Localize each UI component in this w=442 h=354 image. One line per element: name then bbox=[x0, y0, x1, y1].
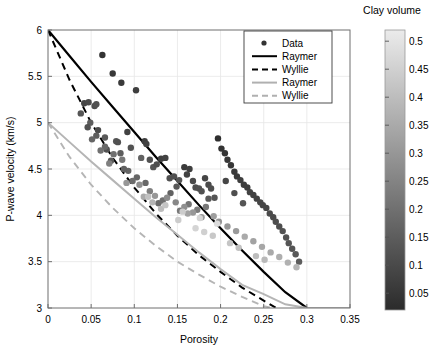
x-tick-label: 0.2 bbox=[214, 314, 228, 325]
data-point bbox=[202, 175, 208, 181]
data-point bbox=[267, 249, 273, 255]
data-point bbox=[192, 225, 198, 231]
data-point bbox=[197, 215, 203, 221]
data-point bbox=[233, 228, 239, 234]
y-tick-label: 5 bbox=[36, 117, 42, 128]
p-wave-velocity-porosity-chart: 00.050.10.150.20.250.30.35 33.544.555.56… bbox=[0, 0, 442, 354]
data-point bbox=[242, 233, 248, 239]
data-point bbox=[143, 141, 149, 147]
data-point bbox=[250, 238, 256, 244]
legend-label[interactable]: Raymer bbox=[282, 77, 318, 88]
data-point bbox=[283, 234, 289, 240]
x-tick-label: 0.1 bbox=[127, 314, 141, 325]
legend-marker-data bbox=[261, 40, 266, 45]
data-point bbox=[154, 161, 160, 167]
data-point bbox=[289, 245, 295, 251]
data-point bbox=[147, 157, 153, 163]
data-point bbox=[263, 205, 269, 211]
data-point bbox=[93, 101, 99, 107]
colorbar-tick-label: 0.25 bbox=[409, 176, 429, 187]
data-point bbox=[152, 193, 158, 199]
data-point bbox=[85, 99, 91, 105]
data-point bbox=[224, 157, 230, 163]
y-tick-label: 3 bbox=[36, 303, 42, 314]
y-tick-label: 4.5 bbox=[28, 164, 42, 175]
data-point bbox=[240, 200, 246, 206]
colorbar-tick-label: 0.35 bbox=[409, 120, 429, 131]
colorbar-tick-label: 0.4 bbox=[409, 92, 423, 103]
data-point bbox=[253, 253, 259, 259]
data-point bbox=[142, 180, 148, 186]
data-point bbox=[89, 136, 95, 142]
data-point bbox=[175, 217, 181, 223]
data-point bbox=[201, 229, 207, 235]
data-point bbox=[223, 178, 229, 184]
data-point bbox=[215, 135, 221, 141]
data-point bbox=[173, 199, 179, 205]
data-point bbox=[106, 160, 112, 166]
data-point bbox=[227, 240, 233, 246]
data-point bbox=[136, 182, 142, 188]
data-point bbox=[210, 233, 216, 239]
legend-label[interactable]: Raymer bbox=[282, 51, 318, 62]
data-point bbox=[224, 223, 230, 229]
y-tick-label: 4 bbox=[36, 210, 42, 221]
data-point bbox=[211, 195, 217, 201]
x-tick-label: 0.15 bbox=[168, 314, 188, 325]
x-tick-label: 0.25 bbox=[254, 314, 274, 325]
colorbar-tick-label: 0.3 bbox=[409, 148, 423, 159]
legend-label[interactable]: Wyllie bbox=[282, 90, 309, 101]
y-tick-label: 6 bbox=[36, 25, 42, 36]
data-point bbox=[285, 259, 291, 265]
data-point bbox=[124, 129, 130, 135]
colorbar-gradient bbox=[385, 30, 405, 310]
data-point bbox=[214, 220, 220, 226]
data-point bbox=[119, 157, 125, 163]
legend[interactable]: DataRaymerWyllieRaymerWyllie bbox=[244, 31, 332, 103]
data-point bbox=[138, 155, 144, 161]
data-point bbox=[110, 70, 116, 76]
y-tick-label: 3.5 bbox=[28, 256, 42, 267]
data-point bbox=[184, 171, 190, 177]
data-point bbox=[210, 213, 216, 219]
data-point bbox=[198, 188, 204, 194]
data-point bbox=[203, 204, 209, 210]
data-point bbox=[259, 244, 265, 250]
data-point bbox=[190, 178, 196, 184]
y-axis-label: P-wave velocity (km/s) bbox=[4, 116, 16, 221]
data-point bbox=[115, 139, 121, 145]
data-point bbox=[228, 162, 234, 168]
y-tick-label: 5.5 bbox=[28, 71, 42, 82]
chart-canvas: 00.050.10.150.20.250.30.35 33.544.555.56… bbox=[0, 0, 442, 354]
data-point bbox=[261, 257, 267, 263]
data-point bbox=[129, 178, 135, 184]
data-point bbox=[276, 254, 282, 260]
data-point bbox=[280, 228, 286, 234]
data-point bbox=[123, 180, 129, 186]
data-point bbox=[176, 177, 182, 183]
data-point bbox=[84, 124, 90, 130]
data-point bbox=[128, 144, 134, 150]
data-point bbox=[231, 190, 237, 196]
colorbar-tick-label: 0.5 bbox=[409, 36, 423, 47]
data-point bbox=[164, 195, 170, 201]
data-point bbox=[171, 173, 177, 179]
data-point bbox=[208, 185, 214, 191]
x-axis-label: Porosity bbox=[180, 333, 219, 345]
data-point bbox=[149, 199, 155, 205]
data-point bbox=[78, 110, 84, 116]
legend-label[interactable]: Wyllie bbox=[282, 64, 309, 75]
data-point bbox=[133, 87, 139, 93]
legend-label[interactable]: Data bbox=[282, 38, 304, 49]
data-point bbox=[110, 151, 116, 157]
x-tick-label: 0.3 bbox=[300, 314, 314, 325]
data-point bbox=[293, 264, 299, 270]
data-point bbox=[186, 166, 192, 172]
data-point bbox=[117, 150, 123, 156]
data-point bbox=[145, 194, 151, 200]
data-point bbox=[95, 127, 101, 133]
colorbar-tick-label: 0.1 bbox=[409, 260, 423, 271]
x-tick-label: 0.35 bbox=[340, 314, 360, 325]
data-point bbox=[292, 251, 298, 257]
data-point bbox=[205, 195, 211, 201]
